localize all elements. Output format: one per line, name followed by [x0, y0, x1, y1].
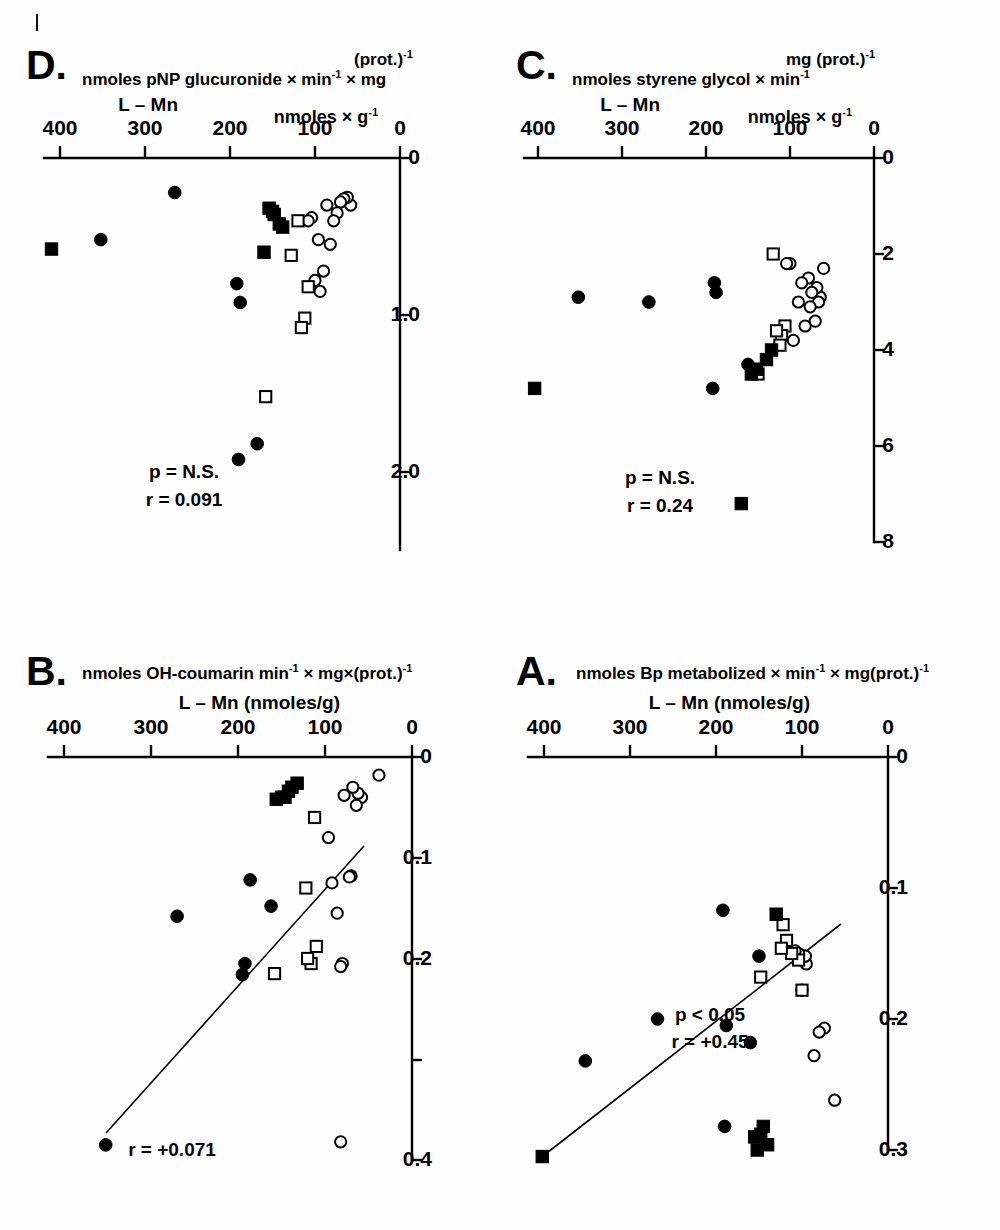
panel-d-xunits-main: nmoles × g	[274, 107, 369, 127]
datapoint-filled-circle	[239, 957, 252, 970]
panel-c-x-axis-units: nmoles × g-1	[748, 106, 852, 128]
svg-text:2.0: 2.0	[391, 459, 420, 482]
datapoint-filled-circle	[579, 1055, 592, 1068]
panel-c-caption: C. nmoles styrene glycol × min-1 mg (pro…	[514, 44, 954, 114]
svg-text:100: 100	[307, 715, 342, 738]
scan-corner-mark	[36, 14, 38, 31]
datapoint-open-square	[300, 882, 311, 893]
svg-text:300: 300	[604, 116, 639, 139]
svg-text:0.2: 0.2	[879, 1006, 908, 1029]
datapoint-filled-square	[263, 202, 275, 214]
panel-a-ylabel-sup1: -1	[815, 662, 825, 674]
datapoint-open-circle	[344, 871, 355, 882]
panel-d-xunits-sup: -1	[368, 106, 378, 118]
datapoint-open-circle	[321, 200, 332, 211]
panel-a-plot: 0 0.1 0.2 0.3 0 100 200 300	[510, 652, 960, 1212]
datapoint-filled-circle	[231, 277, 244, 290]
panel-d-ylabel-mid: × mg	[341, 70, 386, 89]
svg-text:4: 4	[882, 337, 894, 360]
datapoint-filled-circle	[234, 296, 247, 309]
svg-text:300: 300	[133, 715, 168, 738]
svg-text:300: 300	[612, 715, 647, 738]
panel-d-y-axis-title-line2: (prot.)-1	[354, 48, 413, 70]
svg-text:0: 0	[882, 715, 894, 738]
panel-a-ylabel-main: nmoles Bp metabolized × min	[576, 664, 815, 683]
svg-text:0: 0	[868, 116, 880, 139]
datapoint-open-circle	[326, 877, 337, 888]
svg-text:p = N.S.: p = N.S.	[149, 461, 219, 482]
datapoint-open-circle	[335, 961, 346, 972]
datapoint-open-square	[302, 953, 313, 964]
svg-text:0.2: 0.2	[403, 946, 432, 969]
svg-text:200: 200	[220, 715, 255, 738]
panel-c-ylabel-sup2: -1	[865, 48, 875, 60]
panel-b-ylabel-sup2: -1	[403, 662, 413, 674]
datapoint-open-circle	[805, 301, 816, 312]
panel-b-regression-line	[106, 846, 364, 1133]
datapoint-filled-square	[45, 243, 57, 255]
panel-c-y-axis-title-line2: mg (prot.)-1	[786, 48, 875, 70]
datapoint-filled-circle	[236, 968, 249, 981]
datapoint-open-square	[296, 322, 307, 333]
datapoint-open-circle	[351, 800, 362, 811]
svg-text:0.1: 0.1	[879, 875, 909, 898]
svg-text:100: 100	[784, 715, 819, 738]
datapoint-filled-circle	[708, 277, 721, 290]
datapoint-open-circle	[800, 320, 811, 331]
datapoint-open-circle	[318, 265, 329, 276]
panel-d: 0 1.0 2.0 0 100 200 300 400	[20, 30, 490, 610]
svg-text:1.0: 1.0	[391, 302, 420, 325]
datapoint-open-square	[771, 325, 782, 336]
datapoint-open-square	[303, 281, 314, 292]
panel-c-letter: C.	[516, 42, 557, 89]
datapoint-filled-square	[528, 382, 540, 394]
datapoint-filled-square	[270, 793, 282, 805]
datapoint-open-square	[309, 812, 320, 823]
datapoint-open-circle	[335, 1136, 346, 1147]
svg-text:r = +0.071: r = +0.071	[128, 1139, 216, 1160]
datapoint-filled-square	[258, 246, 270, 258]
datapoint-open-circle	[313, 234, 324, 245]
panel-d-plot: 0 1.0 2.0 0 100 200 300 400	[20, 30, 490, 610]
datapoint-open-circle	[332, 908, 343, 919]
panel-c-xunits-main: nmoles × g	[748, 107, 843, 127]
datapoint-open-square	[796, 985, 807, 996]
svg-text:p < 0.05: p < 0.05	[675, 1004, 746, 1025]
datapoint-open-circle	[814, 1027, 825, 1038]
datapoint-open-square	[768, 248, 779, 259]
panel-c-y-axis-title-line1: nmoles styrene glycol × min-1	[572, 68, 810, 90]
panel-b-letter: B.	[26, 648, 67, 695]
panel-b-y-axis-title: nmoles OH-coumarin min-1 × mg×(prot.)-1	[82, 662, 412, 684]
panel-c-ylabel-main: nmoles styrene glycol × min	[572, 70, 800, 89]
datapoint-filled-circle	[95, 233, 108, 246]
panel-a-y-ticks	[888, 757, 898, 1150]
svg-text:400: 400	[526, 715, 561, 738]
panel-b: 0 0.1 0.2 0.4 0 100 200 300 4	[20, 652, 490, 1212]
datapoint-open-square	[292, 215, 303, 226]
datapoint-open-square	[286, 250, 297, 261]
datapoint-filled-circle	[265, 900, 278, 913]
datapoint-open-square	[755, 971, 766, 982]
panel-c-ylabel-mid: mg (prot.)	[786, 50, 865, 69]
svg-text:r = +0.45: r = +0.45	[671, 1031, 749, 1052]
datapoint-open-circle	[796, 277, 807, 288]
datapoint-open-square	[260, 391, 271, 402]
datapoint-filled-circle	[572, 291, 585, 304]
datapoint-filled-square	[751, 1144, 763, 1156]
svg-text:0: 0	[408, 145, 420, 168]
svg-text:200: 200	[688, 116, 723, 139]
datapoint-filled-square	[745, 368, 757, 380]
panel-b-ylabel-main: nmoles OH-coumarin min	[82, 664, 289, 683]
panel-a-x-ticklabels: 0 100 200 300 400	[526, 715, 893, 738]
panel-a-ylabel-mid: × mg(prot.)	[825, 664, 919, 683]
panel-a-x-ticks	[544, 745, 888, 757]
panel-b-plot: 0 0.1 0.2 0.4 0 100 200 300 4	[20, 652, 490, 1212]
svg-text:r = 0.091: r = 0.091	[146, 489, 223, 510]
panel-c: 0 2 4 6 8 0 100 200 300	[510, 30, 960, 610]
datapoint-filled-circle	[244, 874, 257, 887]
datapoint-filled-circle	[717, 904, 730, 917]
panel-d-caption: D. nmoles pNP glucuronide × min-1 × mg (…	[24, 44, 484, 114]
svg-text:0.3: 0.3	[879, 1137, 908, 1160]
panel-a: 0 0.1 0.2 0.3 0 100 200 300	[510, 652, 960, 1212]
panel-d-x-axis-title: L – Mn	[118, 94, 178, 116]
